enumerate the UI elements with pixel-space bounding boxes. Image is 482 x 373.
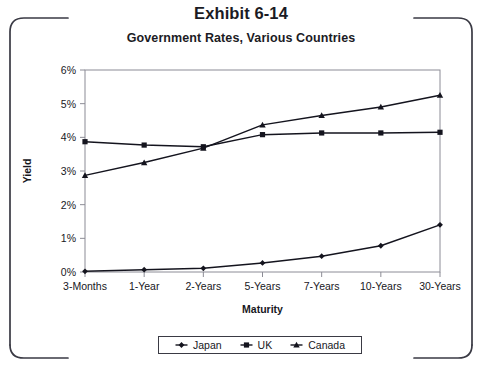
y-axis-tick-label: 2% xyxy=(61,199,76,211)
y-axis-tick-label: 6% xyxy=(61,64,76,76)
legend-item-uk[interactable]: UK xyxy=(240,339,273,351)
legend-label: Japan xyxy=(193,339,222,351)
data-point-canada xyxy=(437,92,443,98)
data-point-uk xyxy=(142,142,147,147)
x-axis-tick-label: 1-Year xyxy=(129,280,160,292)
line-chart: 0%1%2%3%4%5%6%3-Months1-Year2-Years5-Yea… xyxy=(0,0,482,373)
x-axis-title: Maturity xyxy=(242,303,283,315)
y-axis-tick-label: 1% xyxy=(61,232,76,244)
x-axis-tick-label: 30-Years xyxy=(419,280,461,292)
data-point-uk xyxy=(82,139,87,144)
y-axis-tick-label: 4% xyxy=(61,131,76,143)
x-axis-tick-label: 3-Months xyxy=(63,280,107,292)
y-axis-tick-label: 3% xyxy=(61,165,76,177)
data-point-japan xyxy=(378,243,384,249)
data-point-japan xyxy=(260,260,266,266)
data-point-uk xyxy=(260,132,265,137)
chart-legend: JapanUKCanada xyxy=(158,336,362,354)
exhibit-figure: Exhibit 6-14 Government Rates, Various C… xyxy=(0,0,482,373)
legend-item-canada[interactable]: Canada xyxy=(290,339,345,351)
legend-label: UK xyxy=(258,339,273,351)
legend-marker-square-icon xyxy=(240,339,253,351)
y-axis-tick-label: 0% xyxy=(61,266,76,278)
x-axis-tick-label: 7-Years xyxy=(304,280,340,292)
data-point-japan xyxy=(82,268,88,274)
legend-marker-diamond-icon xyxy=(175,339,188,351)
legend-label: Canada xyxy=(308,339,345,351)
plot-border xyxy=(85,70,440,272)
x-axis-tick-label: 10-Years xyxy=(360,280,402,292)
x-axis-tick-label: 5-Years xyxy=(245,280,281,292)
data-point-uk xyxy=(319,130,324,135)
legend-marker-triangle-icon xyxy=(290,339,303,351)
data-point-uk xyxy=(437,130,442,135)
x-axis-tick-label: 2-Years xyxy=(185,280,221,292)
data-point-japan xyxy=(200,265,206,271)
y-axis-title: Yield xyxy=(21,159,33,184)
data-point-japan xyxy=(437,222,443,228)
data-point-japan xyxy=(319,253,325,259)
y-axis-tick-label: 5% xyxy=(61,98,76,110)
chart-plot-area: 0%1%2%3%4%5%6%3-Months1-Year2-Years5-Yea… xyxy=(0,0,482,373)
data-point-uk xyxy=(378,130,383,135)
legend-item-japan[interactable]: Japan xyxy=(175,339,222,351)
